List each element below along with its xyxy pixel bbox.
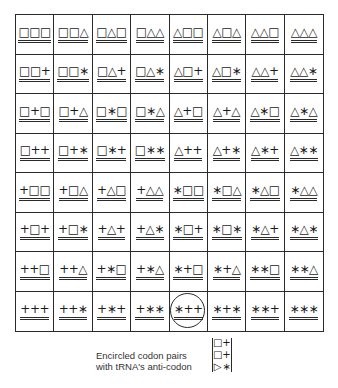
codon-label: ++□ — [20, 263, 50, 280]
codon-label: ∗□□ — [173, 184, 204, 201]
codon-label: △+∗ — [213, 144, 241, 161]
codon-grid: □□□□□△□△□□△△△□□△□△△△□△△△□□+□□∗□△+□△∗△□+△… — [15, 14, 324, 332]
grid-cell: +□+ — [16, 213, 54, 253]
codon-label: ++△ — [59, 263, 87, 280]
codon-label: □∗□ — [96, 105, 127, 122]
codon-label: □+△ — [59, 105, 88, 122]
codon-label: △∗□ — [250, 105, 279, 122]
grid-cell: +△□ — [93, 173, 131, 213]
codon-label: +□+ — [20, 223, 50, 240]
grid-cell: □∗□ — [93, 94, 131, 134]
codon-label: □++ — [20, 144, 50, 161]
grid-cell: ∗□∗ — [208, 213, 246, 253]
codon-label: □△□ — [96, 26, 126, 43]
codon-label: +∗△ — [136, 263, 164, 280]
codon-label: ∗∗□ — [250, 263, 280, 280]
codon-label: ∗□△ — [212, 184, 241, 201]
grid-cell: □□□ — [16, 15, 54, 55]
grid-cell: △++ — [170, 134, 208, 174]
grid-cell: △□∗ — [208, 55, 246, 95]
codon-label: △+△ — [213, 105, 240, 122]
grid-cell: △□+ — [170, 55, 208, 95]
grid-cell: +△+ — [93, 213, 131, 253]
codon-label: ∗△+ — [251, 223, 279, 240]
codon-label: □∗∗ — [135, 144, 165, 161]
grid-cell: ∗△△ — [285, 173, 323, 213]
codon-label: +△□ — [97, 184, 126, 201]
codon-label: ∗∗+ — [251, 303, 280, 320]
grid-cell: +△△ — [131, 173, 169, 213]
grid-cell: ++∗ — [54, 292, 92, 332]
codon-label: ∗△△ — [290, 184, 317, 201]
anticodon-symbol: □ — [213, 350, 222, 360]
grid-cell: □+∗ — [54, 134, 92, 174]
codon-label: □△△ — [136, 26, 164, 43]
codon-label: △△∗ — [290, 65, 317, 82]
grid-cell: ∗□+ — [170, 213, 208, 253]
caption-line-1: Encircled codon pairs — [96, 350, 192, 361]
codon-label: □□∗ — [57, 65, 88, 82]
grid-cell: ∗△□ — [246, 173, 284, 213]
grid-cell: ∗+□ — [170, 252, 208, 292]
codon-label: □∗+ — [96, 144, 126, 161]
codon-label: ++∗ — [59, 303, 88, 320]
grid-cell: □□△ — [54, 15, 92, 55]
grid-cell: ∗∗□ — [246, 252, 284, 292]
codon-label: △++ — [174, 144, 202, 161]
grid-cell: □△□ — [93, 15, 131, 55]
grid-cell: △+∗ — [208, 134, 246, 174]
grid-cell: ∗□□ — [170, 173, 208, 213]
codon-label: ∗∗∗ — [289, 303, 318, 320]
codon-label: △△△ — [291, 26, 317, 43]
codon-label: +□∗ — [58, 223, 88, 240]
grid-cell: △△+ — [246, 55, 284, 95]
codon-label: ∗+□ — [173, 263, 203, 280]
codon-label: ∗∗△ — [290, 263, 318, 280]
codon-label: +∗+ — [97, 303, 126, 320]
grid-cell: ∗+△ — [208, 252, 246, 292]
codon-label: □□△ — [58, 26, 88, 43]
grid-cell: ∗△∗ — [285, 213, 323, 253]
codon-label: +△△ — [136, 184, 163, 201]
anticodon-right-column: + + ∗ — [222, 338, 231, 372]
grid-cell: □∗∗ — [131, 134, 169, 174]
codon-label: □△+ — [97, 65, 126, 82]
grid-cell: ∗□△ — [208, 173, 246, 213]
grid-cell: △□△ — [208, 15, 246, 55]
grid-cell: □++ — [16, 134, 54, 174]
grid-cell: □△∗ — [131, 55, 169, 95]
codon-label: +□△ — [59, 184, 88, 201]
grid-cell: □□+ — [16, 55, 54, 95]
codon-label: ∗△□ — [250, 184, 279, 201]
codon-label: □+∗ — [58, 144, 88, 161]
grid-cell: +∗∗ — [131, 292, 169, 332]
codon-label: △∗△ — [290, 105, 317, 122]
codon-label: +△+ — [98, 223, 126, 240]
codon-label: +△∗ — [136, 223, 164, 240]
codon-label: +□□ — [19, 184, 50, 201]
grid-cell: △∗+ — [246, 134, 284, 174]
grid-cell: ∗+∗ — [208, 292, 246, 332]
codon-label: ∗△∗ — [290, 223, 318, 240]
codon-label: +++ — [20, 303, 49, 320]
grid-cell: △△△ — [285, 15, 323, 55]
codon-label: ∗□∗ — [212, 223, 242, 240]
grid-cell: △△∗ — [285, 55, 323, 95]
anticodon-symbol: □ — [213, 338, 222, 348]
grid-cell: ++△ — [54, 252, 92, 292]
grid-cell: △∗□ — [246, 94, 284, 134]
codon-label: △∗+ — [251, 144, 279, 161]
grid-cell: △+□ — [170, 94, 208, 134]
grid-cell: □△△ — [131, 15, 169, 55]
grid-cell: +∗+ — [93, 292, 131, 332]
codon-label: ∗++ — [174, 303, 203, 320]
grid-cell-circled: ∗++ — [170, 292, 208, 332]
grid-cell: +△∗ — [131, 213, 169, 253]
grid-cell: ∗∗∗ — [285, 292, 323, 332]
grid-cell: ∗∗+ — [246, 292, 284, 332]
grid-cell: △□□ — [170, 15, 208, 55]
codon-label: △+□ — [174, 105, 203, 122]
codon-label: △□△ — [212, 26, 240, 43]
codon-label: △∗∗ — [290, 144, 318, 161]
codon-label: □∗△ — [135, 105, 164, 122]
